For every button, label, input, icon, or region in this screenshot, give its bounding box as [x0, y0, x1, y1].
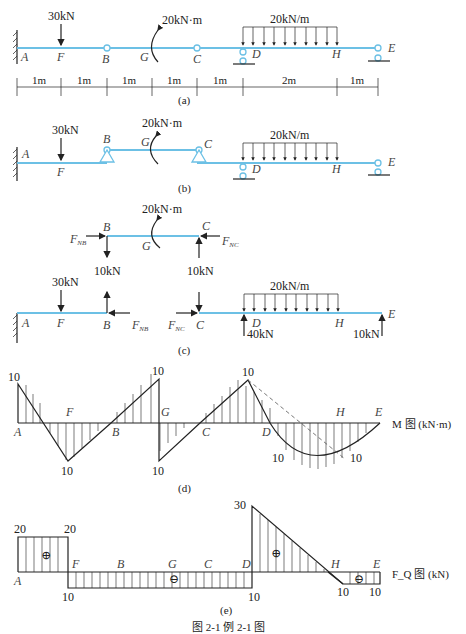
- svg-text:D: D: [251, 162, 261, 176]
- svg-text:C: C: [193, 52, 202, 66]
- svg-text:10: 10: [8, 370, 20, 384]
- svg-text:G: G: [142, 239, 151, 253]
- svg-text:H: H: [331, 47, 342, 61]
- svg-text:E: E: [387, 41, 396, 55]
- svg-text:1m: 1m: [77, 74, 92, 86]
- moment-diagram-title: M 图 (kN·m): [392, 418, 452, 431]
- svg-text:20kN/m: 20kN/m: [270, 128, 310, 142]
- svg-text:G: G: [140, 50, 149, 64]
- svg-text:10: 10: [350, 451, 362, 465]
- moment-arrow: [152, 30, 159, 62]
- svg-text:10: 10: [61, 464, 73, 478]
- svg-text:10: 10: [272, 451, 284, 465]
- svg-text:40kN: 40kN: [247, 327, 274, 341]
- figure-caption: 图 2-1 例 2-1 图: [192, 620, 265, 633]
- svg-text:(e): (e): [220, 604, 233, 617]
- svg-text:FNB: FNB: [131, 318, 149, 333]
- force-fnb-label: FNB: [69, 232, 87, 247]
- panel-c: 20kN·m B G C FNB FNC 10kN 10kN 30kN A F …: [13, 202, 396, 357]
- svg-text:F: F: [56, 50, 65, 64]
- dimension-line: 1m 1m 1m 1m 1m 2m 1m: [17, 74, 378, 96]
- svg-text:20kN/m: 20kN/m: [270, 279, 310, 293]
- hinge-b: [104, 45, 110, 51]
- svg-text:B: B: [117, 557, 125, 571]
- panel-b: 30kN 20kN·m 20kN/m A F B G C D H E (b): [13, 116, 396, 195]
- svg-text:(d): (d): [178, 482, 191, 495]
- svg-text:10kN: 10kN: [187, 264, 214, 278]
- panel-a-label: (a): [178, 94, 191, 107]
- shear-outline: [18, 506, 380, 588]
- structural-diagram: 30kN 20kN·m 20kN/m A F B G C D H E: [0, 0, 466, 634]
- svg-text:20kN·m: 20kN·m: [142, 116, 183, 130]
- negative-sign-icon: ⊖: [169, 572, 179, 586]
- svg-text:10kN: 10kN: [94, 264, 121, 278]
- svg-text:H: H: [334, 316, 345, 330]
- svg-text:C: C: [196, 318, 205, 332]
- svg-text:G: G: [161, 405, 170, 419]
- svg-text:(b): (b): [178, 182, 191, 195]
- moment-label: 20kN·m: [162, 13, 203, 27]
- svg-text:E: E: [372, 557, 381, 571]
- svg-text:1m: 1m: [350, 74, 365, 86]
- svg-text:A: A: [13, 425, 22, 439]
- svg-text:B: B: [103, 132, 111, 146]
- svg-text:E: E: [387, 155, 396, 169]
- shear-diagram-title: F_Q 图 (kN): [392, 568, 449, 581]
- svg-text:C: C: [202, 425, 211, 439]
- svg-text:20kN/m: 20kN/m: [270, 12, 310, 26]
- svg-text:1m: 1m: [167, 74, 182, 86]
- svg-text:10: 10: [337, 585, 349, 599]
- svg-text:A: A: [21, 147, 30, 161]
- svg-text:E: E: [374, 405, 383, 419]
- svg-text:G: G: [141, 135, 150, 149]
- svg-text:(c): (c): [178, 344, 191, 357]
- svg-text:F: F: [56, 316, 65, 330]
- svg-text:A: A: [13, 574, 22, 588]
- svg-text:20kN·m: 20kN·m: [142, 202, 183, 216]
- svg-text:1m: 1m: [32, 74, 47, 86]
- svg-text:C: C: [204, 137, 213, 151]
- svg-text:FNC: FNC: [167, 318, 185, 333]
- svg-text:H: H: [335, 405, 346, 419]
- panel-a: 30kN 20kN·m 20kN/m A F B G C D H E: [13, 9, 396, 107]
- svg-text:A: A: [21, 316, 30, 330]
- svg-text:20: 20: [14, 522, 26, 536]
- svg-text:10: 10: [242, 365, 254, 379]
- svg-text:D: D: [261, 425, 271, 439]
- svg-text:F: F: [65, 405, 74, 419]
- panel-d-moment-diagram: 10 10 10 10 10 10 10 A F B G C D H E M 图…: [8, 364, 452, 495]
- svg-text:30kN: 30kN: [52, 275, 79, 289]
- svg-text:10: 10: [152, 464, 164, 478]
- svg-text:D: D: [251, 47, 261, 61]
- negative-sign-icon: ⊖: [354, 572, 364, 586]
- reference-dashed-line: [248, 380, 345, 459]
- svg-text:10kN: 10kN: [353, 327, 380, 341]
- svg-text:G: G: [168, 557, 177, 571]
- hinge-c: [194, 45, 200, 51]
- svg-text:H: H: [331, 162, 342, 176]
- svg-text:D: D: [241, 557, 251, 571]
- svg-text:B: B: [103, 220, 111, 234]
- svg-text:20: 20: [64, 522, 76, 536]
- svg-text:30: 30: [234, 498, 246, 512]
- svg-text:30kN: 30kN: [52, 123, 79, 137]
- positive-sign-icon: ⊕: [41, 548, 51, 562]
- svg-text:F: F: [71, 557, 80, 571]
- svg-text:B: B: [103, 318, 111, 332]
- point-load-label: 30kN: [48, 9, 75, 23]
- svg-text:1m: 1m: [213, 74, 228, 86]
- svg-text:C: C: [204, 557, 213, 571]
- svg-text:E: E: [387, 307, 396, 321]
- distributed-load: 20kN/m: [243, 12, 337, 45]
- panel-e-shear-diagram: 20 20 10 10 30 10 10 ⊕ ⊖ ⊕ ⊖ A F B G C D…: [13, 498, 449, 617]
- svg-text:10: 10: [62, 590, 74, 604]
- svg-text:10: 10: [152, 364, 164, 378]
- svg-text:F: F: [56, 165, 65, 179]
- svg-text:10: 10: [248, 590, 260, 604]
- svg-text:A: A: [20, 50, 29, 64]
- svg-text:10: 10: [369, 585, 381, 599]
- force-fnc-label: FNC: [221, 234, 239, 249]
- svg-text:2m: 2m: [282, 74, 297, 86]
- positive-sign-icon: ⊕: [271, 546, 281, 560]
- svg-text:B: B: [102, 52, 110, 66]
